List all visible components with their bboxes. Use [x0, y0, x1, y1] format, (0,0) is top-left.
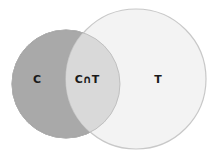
intersection-label: C∩T [75, 73, 100, 86]
set-t-label: T [154, 73, 162, 86]
set-c-label: C [33, 73, 41, 86]
venn-diagram: C C∩T T [0, 0, 207, 155]
